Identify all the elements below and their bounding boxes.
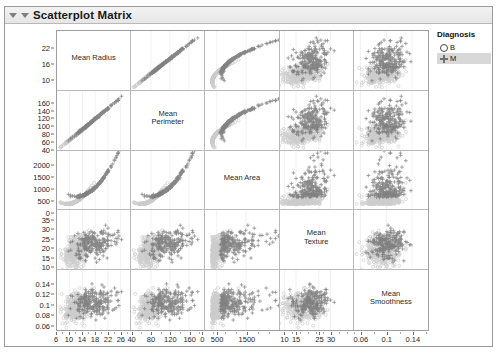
y-tick-mark [51, 118, 54, 119]
matrix-diagonal-cell-0[interactable]: Mean Radius [57, 31, 131, 91]
y-tick-mark [51, 325, 54, 326]
matrix-scatter-cell-r3-c1[interactable] [131, 210, 205, 270]
matrix-scatter-cell-r2-c1[interactable] [131, 151, 205, 211]
matrix-scatter-cell-r3-c2[interactable] [205, 210, 279, 270]
matrix-scatter-cell-r2-c4[interactable] [354, 151, 428, 211]
matrix-scatter-cell-r2-c0[interactable] [57, 151, 131, 211]
x-tick-mark [190, 332, 191, 335]
matrix-scatter-cell-r3-c0[interactable] [57, 210, 131, 270]
matrix-grid: Mean RadiusMean PerimeterMean AreaMean T… [56, 30, 429, 331]
matrix-scatter-cell-r0-c1[interactable] [131, 31, 205, 91]
y-tick-mark [51, 283, 54, 284]
legend-entry-m[interactable]: M [437, 53, 491, 64]
x-minor-tick [316, 332, 317, 334]
y-tick-mark [51, 304, 54, 305]
matrix-diagonal-cell-1[interactable]: Mean Perimeter [131, 91, 205, 151]
y-axis-1: 406080100120140160 [5, 90, 54, 150]
matrix-diagonal-cell-4[interactable]: Mean Smoothness [354, 270, 428, 330]
y-tick-mark [51, 315, 54, 316]
y-tick-mark [51, 238, 54, 239]
matrix-scatter-cell-r1-c2[interactable] [205, 91, 279, 151]
x-tick-mark [319, 332, 320, 335]
matrix-scatter-cell-r0-c3[interactable] [280, 31, 354, 91]
x-tick-mark [69, 332, 70, 335]
x-minor-tick [400, 332, 401, 334]
y-tick-label: 30 [42, 225, 50, 234]
y-tick-label: 500 [37, 196, 50, 205]
plus-icon-glyph [440, 55, 448, 63]
disclosure-triangle-outer-icon[interactable] [9, 13, 17, 18]
y-tick-mark [51, 267, 54, 268]
y-tick-mark [51, 257, 54, 258]
diagonal-variable-label: Mean Smoothness [354, 270, 428, 330]
matrix-scatter-cell-r0-c4[interactable] [354, 31, 428, 91]
y-axis-4: 0.060.080.10.120.14 [5, 271, 54, 331]
matrix-scatter-cell-r4-c1[interactable] [131, 270, 205, 330]
y-tick-mark [51, 64, 54, 65]
x-tick-label: 18 [91, 335, 99, 344]
y-tick-label: 20 [42, 244, 50, 253]
x-tick-mark [387, 332, 388, 335]
y-tick-label: 120 [37, 114, 50, 123]
circle-open-icon-glyph [440, 44, 448, 52]
y-tick-mark [51, 164, 54, 165]
y-tick-label: 60 [42, 137, 50, 146]
x-tick-label: 15 [292, 335, 300, 344]
disclosure-triangle-inner-icon[interactable] [21, 13, 29, 18]
legend-entry-b[interactable]: B [437, 42, 491, 53]
matrix-scatter-cell-r2-c3[interactable] [280, 151, 354, 211]
x-tick-mark [82, 332, 83, 335]
x-tick-mark [413, 332, 414, 335]
y-tick-mark [51, 200, 54, 201]
matrix-diagonal-cell-2[interactable]: Mean Area [205, 151, 279, 211]
matrix-scatter-cell-r4-c2[interactable] [205, 270, 279, 330]
y-tick-label: 10 [42, 75, 50, 84]
x-tick-label: 0.06 [354, 335, 369, 344]
x-tick-label: 10 [65, 335, 73, 344]
x-tick-label: 80 [147, 335, 155, 344]
x-tick-mark [56, 332, 57, 335]
x-minor-tick [141, 332, 142, 334]
matrix-scatter-cell-r1-c3[interactable] [280, 91, 354, 151]
x-minor-tick [269, 332, 270, 334]
matrix-scatter-cell-r4-c3[interactable] [280, 270, 354, 330]
x-axis-4: 0.060.10.14 [354, 332, 429, 346]
x-minor-tick [374, 332, 375, 334]
x-minor-tick [114, 332, 115, 334]
y-tick-label: 1000 [33, 184, 50, 193]
x-tick-label: 0.14 [405, 335, 420, 344]
y-tick-label: 0.1 [40, 300, 50, 309]
y-tick-label: 1500 [33, 172, 50, 181]
x-tick-label: 10 [280, 335, 288, 344]
x-minor-tick [199, 332, 200, 334]
x-tick-label: 120 [164, 335, 177, 344]
x-minor-tick [300, 332, 301, 334]
x-minor-tick [225, 332, 226, 334]
matrix-diagonal-cell-3[interactable]: Mean Texture [280, 210, 354, 270]
x-tick-mark [202, 332, 203, 335]
x-minor-tick [258, 332, 259, 334]
legend-entries: BM [437, 42, 491, 64]
y-tick-label: 0.08 [35, 311, 50, 320]
panel-body: 1016224060801001201401600500100015002000… [5, 24, 492, 346]
x-tick-mark [331, 332, 332, 335]
matrix-scatter-cell-r4-c0[interactable] [57, 270, 131, 330]
matrix-scatter-cell-r1-c4[interactable] [354, 91, 428, 151]
x-axis-1: 4080120160 [131, 332, 206, 346]
y-tick-mark [51, 110, 54, 111]
x-minor-tick [180, 332, 181, 334]
x-minor-tick [213, 332, 214, 334]
matrix-scatter-cell-r1-c0[interactable] [57, 91, 131, 151]
legend-entry-label: B [450, 43, 455, 52]
panel-titlebar[interactable]: Scatterplot Matrix [5, 7, 492, 24]
matrix-scatter-cell-r0-c2[interactable] [205, 31, 279, 91]
y-tick-mark [51, 79, 54, 80]
x-tick-label: 14 [78, 335, 86, 344]
x-axis-2: 05001500 [205, 332, 280, 346]
x-tick-mark [247, 332, 248, 335]
x-tick-mark [121, 332, 122, 335]
x-tick-label: 160 [183, 335, 196, 344]
legend-entry-label: M [450, 54, 456, 63]
scatterplot-matrix-window: Scatterplot Matrix 101622406080100120140… [4, 6, 493, 347]
matrix-scatter-cell-r3-c4[interactable] [354, 210, 428, 270]
